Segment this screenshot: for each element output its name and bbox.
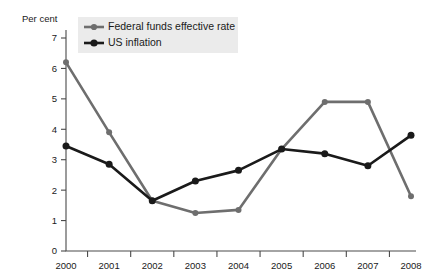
data-point bbox=[236, 207, 242, 213]
y-tick-label: 3 bbox=[52, 154, 57, 165]
series-line bbox=[66, 62, 411, 213]
y-tick-label: 0 bbox=[52, 245, 57, 256]
x-tick-label: 2007 bbox=[357, 260, 378, 271]
data-point bbox=[63, 59, 69, 65]
data-point bbox=[192, 210, 198, 216]
y-tick-label: 7 bbox=[52, 32, 57, 43]
y-tick-label: 2 bbox=[52, 185, 57, 196]
data-point bbox=[321, 150, 328, 157]
chart-axes bbox=[66, 30, 416, 251]
data-point bbox=[408, 193, 414, 199]
x-tick-label: 2003 bbox=[185, 260, 206, 271]
x-tick-label: 2006 bbox=[314, 260, 335, 271]
legend-label-us-inflation: US inflation bbox=[108, 36, 162, 48]
x-tick-label: 2001 bbox=[99, 260, 120, 271]
data-point bbox=[408, 132, 415, 139]
data-point bbox=[364, 162, 371, 169]
y-tick-label: 5 bbox=[52, 93, 57, 104]
series-federal-funds bbox=[63, 59, 414, 216]
x-tick-label: 2008 bbox=[400, 260, 421, 271]
data-point bbox=[322, 99, 328, 105]
x-tick-label: 2000 bbox=[55, 260, 76, 271]
x-tick-label: 2005 bbox=[271, 260, 292, 271]
x-axis-ticks: 200020012002200320042005200620072008 bbox=[55, 251, 421, 271]
line-chart: 01234567 2000200120022003200420052006200… bbox=[0, 0, 431, 276]
y-tick-label: 1 bbox=[52, 215, 57, 226]
data-point bbox=[365, 99, 371, 105]
data-point bbox=[106, 129, 112, 135]
y-tick-label: 6 bbox=[52, 63, 57, 74]
y-axis-title: Per cent bbox=[22, 13, 58, 24]
data-point bbox=[235, 167, 242, 174]
data-point bbox=[278, 146, 285, 153]
chart-canvas: 01234567 2000200120022003200420052006200… bbox=[0, 0, 431, 276]
y-tick-label: 4 bbox=[52, 124, 57, 135]
legend-swatch-dot-us-inflation bbox=[90, 39, 97, 46]
data-point bbox=[192, 178, 199, 185]
x-tick-label: 2002 bbox=[142, 260, 163, 271]
data-point bbox=[63, 143, 70, 150]
data-series-group bbox=[63, 59, 415, 216]
data-point bbox=[149, 197, 156, 204]
x-tick-label: 2004 bbox=[228, 260, 249, 271]
data-point bbox=[106, 161, 113, 168]
legend-swatch-dot-federal-funds bbox=[91, 24, 97, 30]
legend-label-federal-funds: Federal funds effective rate bbox=[108, 20, 235, 32]
